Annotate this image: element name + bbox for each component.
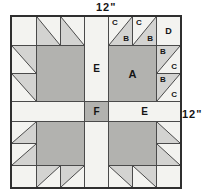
hst-cell — [12, 73, 36, 101]
claw-triangle — [37, 17, 60, 45]
claw-triangle — [12, 74, 36, 101]
width-dimension-label: 12" — [96, 1, 116, 13]
sashing-strip-top: E — [84, 17, 108, 101]
corner-square — [156, 165, 180, 187]
cell-label: A — [129, 68, 137, 79]
claw-triangle — [37, 166, 60, 187]
piece-letter-label: B — [123, 35, 129, 43]
hst-cell — [156, 143, 180, 165]
corner-square — [12, 165, 36, 187]
piece-letter-label: B — [147, 35, 153, 43]
hst-cell: BC — [156, 45, 180, 73]
paw-square-a: A — [108, 45, 156, 101]
hst-cell — [36, 165, 60, 187]
piece-letter-label: B — [160, 48, 166, 56]
quilt-block: EDAFECBCBBCBC — [10, 15, 182, 189]
paw-square — [36, 45, 84, 101]
hst-cell — [36, 17, 60, 45]
hst-cell — [60, 17, 84, 45]
claw-triangle — [157, 144, 180, 165]
corner-square — [12, 17, 36, 45]
claw-triangle — [157, 122, 180, 143]
cell-label: E — [141, 107, 148, 117]
claw-triangle — [109, 166, 132, 187]
hst-cell — [60, 165, 84, 187]
claw-triangle — [61, 17, 84, 45]
hst-cell — [12, 121, 36, 143]
center-square-f: F — [84, 101, 108, 121]
quilt-pattern-diagram: 12" 12" EDAFECBCBBCBC — [0, 0, 202, 194]
claw-triangle — [133, 166, 156, 187]
hst-cell: BC — [156, 73, 180, 101]
paw-square — [108, 121, 156, 165]
hst-cell — [12, 45, 36, 73]
claw-triangle — [12, 144, 36, 165]
piece-letter-label: C — [112, 19, 118, 27]
hst-cell — [12, 143, 36, 165]
paw-square — [36, 121, 84, 165]
piece-letter-label: C — [171, 91, 177, 99]
corner-square-d: D — [156, 17, 180, 45]
sashing-strip-bottom — [84, 121, 108, 187]
cell-label: D — [165, 27, 172, 36]
hst-cell: CB — [132, 17, 156, 45]
height-dimension-label: 12" — [182, 108, 202, 120]
piece-letter-label: C — [171, 63, 177, 71]
hst-cell — [132, 165, 156, 187]
sashing-strip-right: E — [108, 101, 180, 121]
claw-triangle — [12, 46, 36, 73]
piece-letter-label: B — [160, 76, 166, 84]
cell-label: E — [93, 64, 100, 74]
cell-label: F — [93, 107, 99, 117]
hst-cell — [156, 121, 180, 143]
piece-letter-label: C — [136, 19, 142, 27]
claw-triangle — [61, 166, 84, 187]
claw-triangle — [12, 122, 36, 143]
hst-cell — [108, 165, 132, 187]
sashing-strip-left — [12, 101, 84, 121]
hst-cell: CB — [108, 17, 132, 45]
